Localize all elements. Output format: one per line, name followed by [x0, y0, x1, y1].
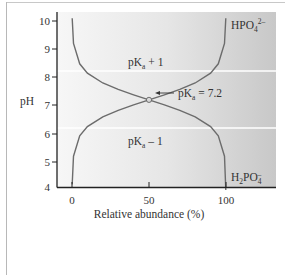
svg-text:8: 8: [45, 71, 51, 83]
titration-chart: pKa = 7.2 pKa + 1 pKa – 1 HPO42– H2PO4– …: [0, 0, 285, 275]
x-axis-title: Relative abundance (%): [94, 208, 205, 221]
svg-text:5: 5: [45, 156, 51, 168]
svg-text:9: 9: [45, 43, 51, 55]
svg-text:0: 0: [69, 194, 75, 206]
y-axis-tick-labels: 10 9 8 7 6 5 4: [39, 15, 51, 193]
svg-text:100: 100: [218, 194, 235, 206]
svg-text:6: 6: [45, 128, 51, 140]
plot-background: [57, 12, 276, 187]
pka-point-marker: [146, 97, 151, 102]
x-axis-tick-labels: 0 50 100: [69, 194, 235, 206]
svg-text:50: 50: [144, 194, 156, 206]
y-axis-ticks: [52, 21, 57, 162]
svg-text:4: 4: [45, 181, 51, 193]
y-axis-title: pH: [20, 95, 34, 108]
svg-text:10: 10: [39, 15, 51, 27]
svg-text:7: 7: [45, 99, 51, 111]
